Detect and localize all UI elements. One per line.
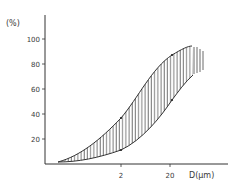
y-tick-label: 40 <box>31 111 40 119</box>
chart-canvas: 100 80 60 40 20 2 20 (%) D(μm) <box>0 0 239 187</box>
y-tick-label: 100 <box>27 36 40 44</box>
data-point <box>171 54 173 56</box>
y-axis-label: (%) <box>6 19 20 28</box>
data-point <box>120 149 122 151</box>
y-tick-label: 20 <box>31 136 40 144</box>
data-point <box>171 99 173 101</box>
data-point <box>120 117 122 119</box>
x-tick-label: 2 <box>119 172 123 180</box>
y-tick-label: 80 <box>31 61 40 69</box>
hatched-band <box>56 40 203 165</box>
y-tick-label: 60 <box>31 86 40 94</box>
x-axis-label: D(μm) <box>189 171 214 180</box>
x-tick-label: 20 <box>166 172 175 180</box>
